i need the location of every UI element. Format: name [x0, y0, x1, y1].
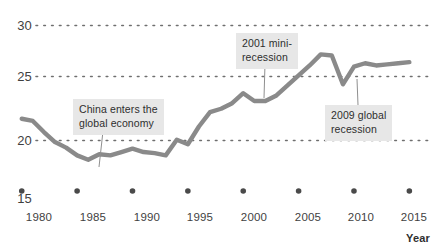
- x-tick-label-2005: 2005: [285, 211, 331, 223]
- y-tick-label-25: 25: [6, 69, 32, 84]
- chart-container: 30 25 20 15 1980 1985 1990 1995 2000 200…: [0, 0, 440, 251]
- annotation-global-recession-2009: 2009 global recession: [325, 105, 392, 141]
- leader-line-global-recession-2009: [357, 79, 358, 105]
- x-tick-dot-2015: [407, 188, 413, 194]
- y-tick-label-20: 20: [6, 133, 32, 148]
- x-tick-dot-1990: [130, 188, 136, 194]
- x-tick-label-1985: 1985: [70, 211, 116, 223]
- x-tick-label-1990: 1990: [124, 211, 170, 223]
- x-tick-label-2010: 2010: [338, 211, 384, 223]
- x-tick-dot-1995: [185, 188, 191, 194]
- leader-line-china-entry: [99, 131, 103, 167]
- x-axis-title: Year: [406, 232, 430, 244]
- x-tick-label-2015: 2015: [391, 211, 437, 223]
- x-tick-dot-1985: [74, 188, 80, 194]
- annotation-mini-recession-2001: 2001 mini- recession: [236, 33, 298, 69]
- x-tick-dot-2005: [296, 188, 302, 194]
- x-tick-label-1995: 1995: [177, 211, 223, 223]
- x-tick-dot-2010: [351, 188, 357, 194]
- annotation-china-entry: China enters the global economy: [73, 99, 164, 135]
- x-tick-label-2000: 2000: [231, 211, 277, 223]
- x-tick-dot-2000: [240, 188, 246, 194]
- y-tick-label-30: 30: [6, 18, 32, 33]
- x-tick-label-1980: 1980: [16, 211, 62, 223]
- x-axis-tick-markers: [19, 188, 412, 194]
- y-tick-label-15: 15: [6, 191, 32, 206]
- leader-line-mini-recession-2001: [264, 64, 265, 98]
